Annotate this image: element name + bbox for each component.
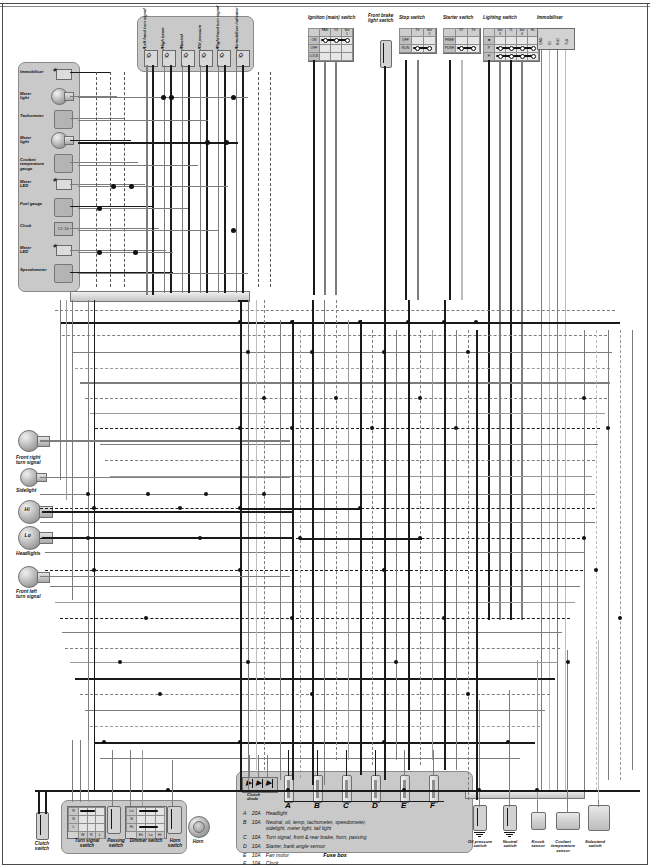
wire-v — [632, 330, 633, 770]
immobiliser-pin-0: GND — [540, 30, 544, 45]
cluster-label-6: Fuel gauge — [20, 202, 50, 206]
dimmer-switch-label: Dimmer switch — [128, 839, 164, 844]
headlights-label: Headlights — [16, 551, 41, 556]
sensor-1-blade — [507, 808, 508, 826]
wire-v — [242, 65, 244, 293]
wire-v — [557, 50, 558, 790]
junction-node — [133, 250, 138, 255]
wire-v — [172, 760, 173, 806]
wire-h — [70, 662, 558, 663]
wire-v — [267, 755, 268, 777]
wire-v — [488, 60, 490, 620]
warning-lamp-glyph-3: ⎐ — [201, 52, 206, 58]
junction-node — [246, 660, 251, 665]
wire-h — [284, 801, 444, 802]
wire-v — [80, 740, 81, 802]
junction-node — [97, 250, 102, 255]
sw-stop-contact-1-2 — [427, 46, 432, 51]
junction-node — [158, 692, 163, 697]
fuse-legend-id: B — [243, 819, 250, 832]
page-border-right — [647, 3, 648, 865]
wire-v — [292, 320, 294, 780]
junction-node — [262, 492, 267, 497]
wire-v — [200, 65, 201, 293]
warning-arrow-3: ↖ — [197, 46, 201, 51]
wire-v — [206, 65, 208, 293]
gnd-bar — [478, 836, 481, 837]
sw-ignition-cell-2-3[interactable] — [341, 52, 353, 61]
cluster-gauge-6 — [54, 198, 73, 217]
fuse-F[interactable] — [429, 775, 439, 803]
warning-label-5: Immobiliser indicator — [235, 20, 239, 48]
wire-h — [78, 120, 208, 121]
fuse-legend-rating: 10A — [252, 860, 264, 867]
wire-h — [40, 576, 290, 577]
sw-lighting-contact-1-1 — [498, 46, 503, 51]
wire-h — [70, 118, 124, 119]
fuse-legend-id: E — [243, 852, 250, 859]
junction-node — [262, 396, 267, 401]
dimmer-closed-bar-2 — [139, 826, 158, 828]
wire-v — [510, 60, 512, 620]
junction-node — [370, 426, 375, 431]
wire-h — [40, 477, 290, 478]
sw-lighting-contact-2-1 — [498, 54, 503, 59]
cluster-label-2: Tachometer — [20, 114, 50, 118]
wire-h — [70, 184, 145, 185]
fuse-C[interactable] — [342, 775, 352, 803]
fuse-legend-circuits: Turn signal, front & rear brake, horn, p… — [266, 834, 370, 841]
wire-v — [188, 65, 190, 293]
wire-h — [75, 368, 610, 369]
fuse-legend-id: A — [243, 810, 250, 817]
wire-v — [258, 72, 259, 287]
wire-v — [110, 72, 111, 287]
junction-node — [178, 506, 183, 511]
wire-v — [324, 300, 325, 785]
fuse-legend-rating: 10A — [252, 852, 264, 859]
sw-lighting-contact-1-3 — [520, 46, 525, 51]
wire-v — [313, 60, 315, 295]
wire-v — [258, 755, 259, 777]
fuse-legend-circuits: Clock — [266, 860, 370, 867]
warning-arrow-5: ↖ — [234, 46, 238, 51]
wire-v — [60, 300, 61, 480]
sw-lighting-contact-2-3 — [520, 54, 525, 59]
fuse-legend-id: F — [243, 860, 250, 867]
clutch-switch[interactable] — [36, 812, 49, 840]
starter-switch-label: Starter switch — [443, 16, 473, 21]
junction-node — [594, 568, 599, 573]
wire-v — [346, 750, 347, 776]
wire-v — [468, 330, 469, 800]
wire-v — [88, 740, 89, 802]
wire-h — [75, 678, 555, 680]
front-right-turn-label: Front right turn signal — [16, 455, 56, 465]
cluster-led-arrow-5: ✶ — [52, 177, 57, 183]
gnd-bar — [476, 834, 483, 835]
wire-v — [45, 790, 47, 814]
junction-node — [198, 536, 203, 541]
wire-h — [70, 206, 152, 207]
wire-h — [62, 335, 607, 336]
passing-switch-label: Passing switch — [105, 839, 127, 849]
junction-node — [466, 350, 471, 355]
junction-node — [224, 140, 229, 145]
wire-v — [248, 300, 249, 790]
dimmer-closed-bar-1 — [139, 810, 158, 812]
front-brake-switch[interactable] — [380, 40, 392, 68]
fuse-B[interactable] — [313, 775, 323, 803]
horn-switch-body[interactable] — [167, 806, 182, 834]
warning-label-3: Oil pressure — [198, 20, 202, 48]
immobiliser-pin-1: IG — [549, 30, 553, 45]
diode-bar-2 — [272, 779, 273, 788]
immobiliser-pin-3: TxD — [566, 30, 570, 45]
fuse-legend-rating: 20A — [252, 810, 264, 817]
gnd-bar — [506, 834, 513, 835]
junction-node — [618, 616, 623, 621]
wire-h — [70, 72, 110, 73]
passing-body[interactable] — [107, 806, 121, 834]
fuse-legend: A20AHeadlightB10ANeutral, oil, temp, tac… — [241, 808, 371, 868]
wire-h — [80, 382, 610, 384]
diode-bar-0 — [252, 779, 253, 788]
wire-v — [288, 750, 289, 776]
fuse-D[interactable] — [371, 775, 381, 803]
